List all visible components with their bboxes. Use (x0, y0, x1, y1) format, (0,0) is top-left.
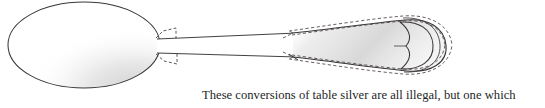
spoon-stem (157, 33, 297, 57)
neck-dash-lower (156, 53, 177, 64)
figure-caption: These conversions of table silver are al… (202, 88, 545, 103)
figure-page: These conversions of table silver are al… (0, 0, 545, 108)
bowl-shading (36, 26, 172, 106)
spoon-bowl (8, 2, 172, 106)
